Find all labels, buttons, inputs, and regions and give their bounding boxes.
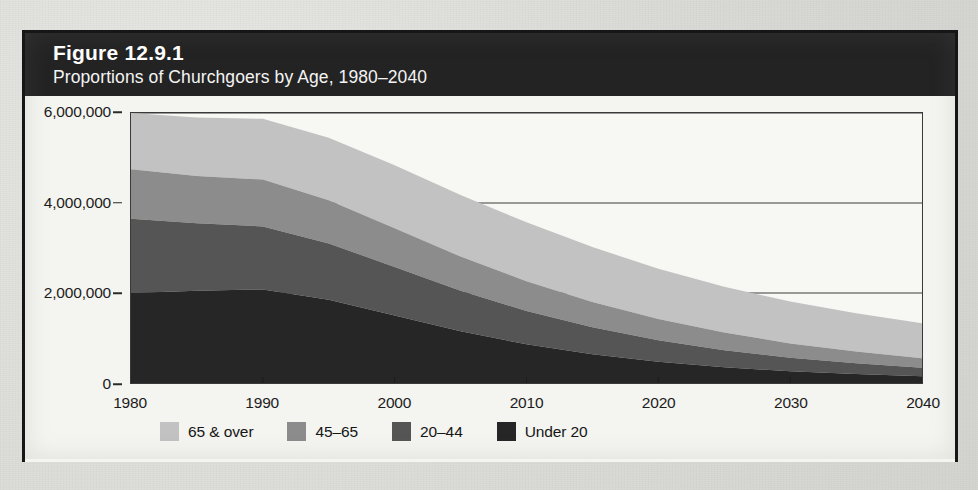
- legend-swatch-icon: [392, 422, 411, 441]
- y-tick-mark: [113, 111, 122, 113]
- figure-container: Figure 12.9.1 Proportions of Churchgoers…: [22, 30, 958, 462]
- legend-item[interactable]: 45–65: [287, 422, 358, 441]
- y-axis: 6,000,0004,000,0002,000,0000: [25, 96, 125, 396]
- x-tick-label: 2020: [642, 394, 676, 412]
- figure-number: Figure 12.9.1: [53, 40, 955, 65]
- legend-swatch-icon: [497, 422, 516, 441]
- y-tick-mark: [113, 293, 122, 295]
- figure-subtitle: Proportions of Churchgoers by Age, 1980–…: [53, 65, 955, 89]
- legend-label: 45–65: [315, 423, 358, 441]
- legend-item[interactable]: Under 20: [497, 422, 588, 441]
- x-tick-label: 1980: [113, 394, 147, 412]
- y-tick-mark: [113, 202, 122, 204]
- y-tick-mark: [113, 383, 122, 385]
- legend-item[interactable]: 20–44: [392, 422, 463, 441]
- legend-item[interactable]: 65 & over: [160, 422, 253, 441]
- y-tick-label: 2,000,000: [44, 284, 111, 302]
- legend-swatch-icon: [287, 422, 306, 441]
- chart-body: 6,000,0004,000,0002,000,0000 19801990200…: [25, 96, 955, 462]
- chart-legend: 65 & over45–6520–44Under 20: [160, 422, 622, 441]
- x-tick-label: 2030: [774, 394, 808, 412]
- legend-label: 20–44: [420, 423, 463, 441]
- y-tick-label: 4,000,000: [44, 194, 111, 212]
- x-tick-label: 2000: [377, 394, 411, 412]
- y-tick-label: 6,000,000: [44, 103, 111, 121]
- legend-swatch-icon: [160, 422, 179, 441]
- x-tick-label: 2040: [906, 394, 940, 412]
- x-tick-label: 2010: [510, 394, 544, 412]
- legend-label: Under 20: [525, 423, 588, 441]
- figure-header: Figure 12.9.1 Proportions of Churchgoers…: [25, 33, 955, 96]
- plot-area: [130, 112, 923, 384]
- legend-label: 65 & over: [188, 423, 253, 441]
- x-axis: 1980199020002010202020302040: [130, 390, 923, 416]
- stacked-area-chart: [131, 113, 922, 383]
- x-tick-label: 1990: [245, 394, 279, 412]
- y-tick-label: 0: [103, 375, 111, 393]
